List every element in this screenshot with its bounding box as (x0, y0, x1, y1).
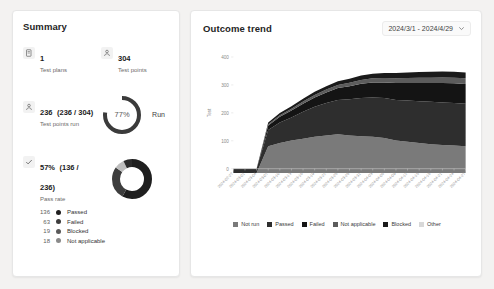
legend-label: Failed (67, 219, 83, 225)
pass-donut-wrap (95, 156, 169, 202)
legend-label: Blocked (67, 228, 88, 234)
summary-card: Summary 1 Test plans 304 Test points (12, 10, 180, 277)
pass-value: 57% (40, 163, 55, 172)
metric-label: Test plans (40, 67, 67, 75)
run-block: 236 (236 / 304) Test points run 77% Run (23, 92, 169, 138)
legend-dot-icon (56, 210, 61, 215)
legend-label: Passed (67, 209, 87, 215)
run-label: Test points run (40, 121, 93, 129)
test-point-icon (101, 47, 113, 59)
summary-legend: 136Passed63Failed19Blocked18Not applicab… (37, 209, 169, 244)
metric-label: Test points (118, 67, 147, 75)
legend-dot-icon (56, 238, 61, 243)
legend-count: 19 (37, 228, 50, 234)
run-value: 236 (40, 108, 53, 117)
y-axis-tick: 400 (221, 55, 229, 60)
legend-count: 63 (37, 219, 50, 225)
run-chart-label: Run (152, 111, 165, 118)
legend-dot-icon (56, 219, 61, 224)
legend-label: Not applicable (67, 238, 105, 244)
legend-dot-icon (56, 229, 61, 234)
metric-value: 304 (118, 54, 131, 63)
legend-row: 136Passed (37, 209, 169, 215)
pass-label: Pass rate (40, 196, 95, 204)
legend-row: 63Failed (37, 219, 169, 225)
legend-count: 136 (37, 209, 50, 215)
y-axis-label: Test (207, 108, 212, 117)
y-axis-tick: 300 (221, 83, 229, 88)
legend-row: 18Not applicable (37, 238, 169, 244)
y-axis-tick: 200 (221, 111, 229, 116)
test-point-icon (23, 101, 35, 113)
pass-donut (109, 156, 155, 202)
outcome-trend-chart: 0100200300400Test2024-02-272024-03-01202… (203, 40, 471, 225)
chevron-down-icon (458, 25, 465, 32)
metric-test-plans: 1 Test plans (23, 46, 101, 75)
dashboard-root: Summary 1 Test plans 304 Test points (0, 0, 494, 289)
run-donut-wrap: 77% Run (95, 92, 169, 138)
legend-row: 19Blocked (37, 228, 169, 234)
outcome-trend-card: Outcome trend 2024/3/1 - 2024/4/29 01002… (190, 10, 482, 277)
y-axis-tick: 0 (226, 167, 229, 172)
legend-count: 18 (37, 238, 50, 244)
test-plan-icon (23, 47, 35, 59)
date-range-value: 2024/3/1 - 2024/4/29 (388, 25, 453, 32)
metric-test-points: 304 Test points (101, 46, 147, 75)
trend-title: Outcome trend (203, 23, 272, 34)
run-metric: 236 (236 / 304) Test points run (23, 100, 95, 129)
run-donut: 77% (99, 92, 145, 138)
pass-metric: 57% (136 / 236) Pass rate (23, 155, 95, 204)
trend-header: Outcome trend 2024/3/1 - 2024/4/29 (203, 21, 471, 36)
metric-value: 1 (40, 54, 44, 63)
summary-title: Summary (23, 21, 169, 32)
run-percent: 77% (99, 92, 145, 138)
summary-metrics: 1 Test plans 304 Test points (23, 46, 169, 75)
check-icon (23, 156, 35, 168)
run-subvalue: (236 / 304) (57, 108, 93, 117)
y-axis-tick: 100 (221, 139, 229, 144)
date-range-picker[interactable]: 2024/3/1 - 2024/4/29 (382, 21, 471, 36)
pass-block: 57% (136 / 236) Pass rate (23, 155, 169, 204)
